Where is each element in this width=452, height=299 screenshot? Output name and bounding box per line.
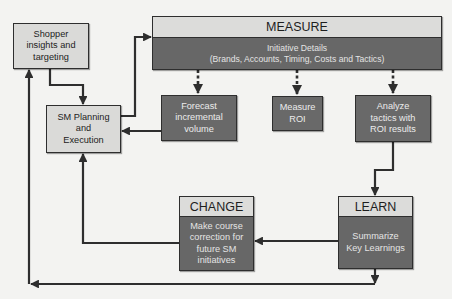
node-sm-planning: SM Planning and Execution bbox=[46, 105, 121, 153]
measure-body: Initiative Details (Brands, Accounts, Ti… bbox=[210, 43, 385, 65]
node-roi-label: Measure ROI bbox=[280, 102, 316, 125]
change-body: Make course correction for future SM ini… bbox=[190, 221, 244, 267]
node-change: CHANGE Make course correction for future… bbox=[179, 196, 254, 271]
learn-body: Summarize Key Learnings bbox=[346, 231, 405, 254]
edge-planning-to-measure bbox=[120, 37, 151, 116]
measure-title: MEASURE bbox=[153, 17, 441, 38]
node-forecast-label: Forecast incremental volume bbox=[175, 101, 223, 136]
node-planning-label: SM Planning and Execution bbox=[57, 112, 109, 147]
edge-shopper-to-planning bbox=[50, 68, 83, 104]
node-analyze: Analyze tactics with ROI results bbox=[355, 95, 431, 142]
change-title: CHANGE bbox=[180, 197, 253, 217]
node-shopper-label: Shopper insights and targeting bbox=[26, 29, 75, 64]
node-forecast: Forecast incremental volume bbox=[161, 95, 237, 141]
node-learn: LEARN Summarize Key Learnings bbox=[338, 196, 413, 269]
edge-analyze-to-learn bbox=[375, 141, 393, 195]
node-analyze-label: Analyze tactics with ROI results bbox=[370, 101, 416, 136]
node-shopper-insights: Shopper insights and targeting bbox=[13, 23, 89, 69]
edge-change-to-planning bbox=[83, 154, 179, 243]
node-measure: MEASURE Initiative Details (Brands, Acco… bbox=[152, 16, 442, 70]
learn-title: LEARN bbox=[339, 197, 412, 217]
node-measure-roi: Measure ROI bbox=[272, 96, 323, 131]
